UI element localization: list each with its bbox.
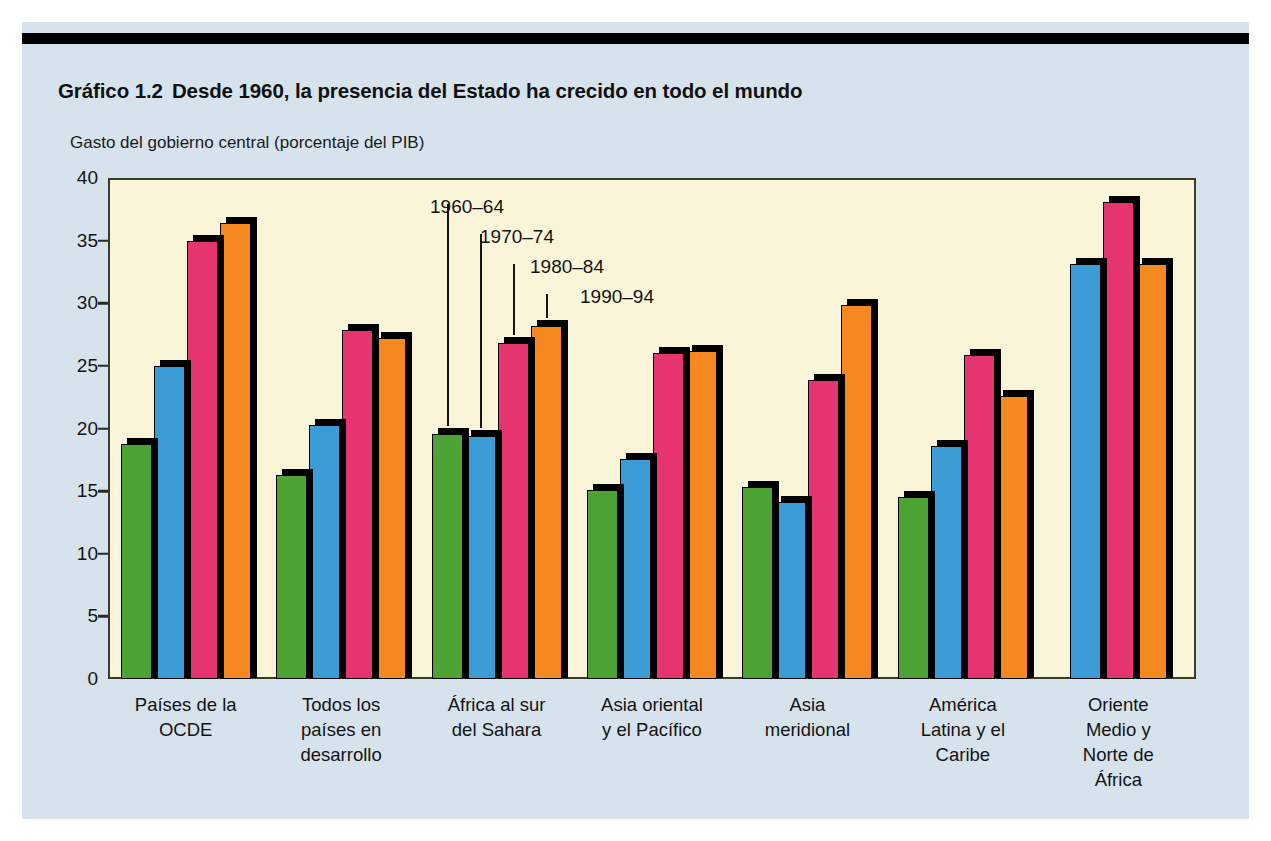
x-axis-category-labels: Países de laOCDETodos lospaíses endesarr…: [108, 692, 1196, 812]
bar-1960-64: [276, 475, 307, 679]
y-axis-tick-label: 20: [77, 418, 98, 440]
x-axis-label-line: Norte de: [1041, 742, 1196, 767]
x-axis-label-line: Oriente: [1041, 692, 1196, 717]
bar-groups: [108, 178, 1196, 679]
bar-1980-84: [808, 380, 839, 679]
bar-1980-84: [187, 241, 218, 679]
bar-1970-74: [620, 459, 651, 679]
x-axis-category-label: OrienteMedio yNorte deÁfrica: [1041, 692, 1196, 792]
x-axis-label-line: Todos los: [263, 692, 418, 717]
x-axis-label-line: Asia oriental: [574, 692, 729, 717]
bar-group: [1041, 178, 1196, 679]
x-axis-category-label: Todos lospaíses endesarrollo: [263, 692, 418, 767]
bar-1990-94: [686, 351, 717, 679]
x-axis-category-label: Países de laOCDE: [108, 692, 263, 742]
bar-1960-64: [742, 487, 773, 679]
bar-group: [419, 178, 574, 679]
x-axis-label-line: meridional: [730, 717, 885, 742]
y-axis-tick-label: 15: [77, 480, 98, 502]
plot-wrapper: [108, 178, 1196, 679]
x-axis-label-line: Caribe: [885, 742, 1040, 767]
bar-1990-94: [531, 326, 562, 679]
y-axis-tick-label: 0: [87, 668, 98, 690]
bar-group: [574, 178, 729, 679]
y-axis-tick-label: 25: [77, 355, 98, 377]
x-axis-label-line: del Sahara: [419, 717, 574, 742]
bar-1990-94: [220, 223, 251, 679]
x-axis-label-line: América: [885, 692, 1040, 717]
figure-number: Gráfico 1.2: [58, 79, 163, 102]
page-title: Gráfico 1.2Desde 1960, la presencia del …: [58, 79, 802, 103]
x-axis-category-label: AméricaLatina y elCaribe: [885, 692, 1040, 767]
x-axis-label-line: Países de la: [108, 692, 263, 717]
top-rule-divider: [22, 33, 1249, 44]
bar-1980-84: [1103, 202, 1134, 679]
bar-1970-74: [154, 366, 185, 679]
x-axis-label-line: Medio y: [1041, 717, 1196, 742]
x-axis-label-line: desarrollo: [263, 742, 418, 767]
y-axis-tick-label: 5: [87, 605, 98, 627]
y-axis-tick-label: 10: [77, 543, 98, 565]
figure-title-text: Desde 1960, la presencia del Estado ha c…: [172, 79, 803, 102]
bar-1960-64: [898, 497, 929, 679]
bar-1980-84: [498, 343, 529, 679]
bar-group: [263, 178, 418, 679]
bar-1960-64: [432, 434, 463, 679]
bar-1970-74: [309, 425, 340, 679]
x-axis-label-line: países en: [263, 717, 418, 742]
x-axis-label-line: África al sur: [419, 692, 574, 717]
bar-1990-94: [375, 338, 406, 679]
y-axis-tick-label: 35: [77, 230, 98, 252]
bar-1980-84: [964, 355, 995, 679]
bar-1970-74: [1070, 264, 1101, 679]
bar-1990-94: [1136, 264, 1167, 679]
bar-1990-94: [997, 396, 1028, 679]
y-axis-tick-label: 30: [77, 292, 98, 314]
bar-group: [885, 178, 1040, 679]
x-axis-category-label: África al surdel Sahara: [419, 692, 574, 742]
figure-root: Gráfico 1.2Desde 1960, la presencia del …: [0, 0, 1271, 841]
x-axis-label-line: Latina y el: [885, 717, 1040, 742]
bar-1960-64: [587, 490, 618, 679]
x-axis-label-line: Asia: [730, 692, 885, 717]
y-axis-tick-label: 40: [77, 167, 98, 189]
bar-1960-64: [121, 444, 152, 679]
bar-1970-74: [931, 446, 962, 679]
bar-1970-74: [775, 502, 806, 679]
bar-group: [730, 178, 885, 679]
x-axis-category-label: Asia orientaly el Pacífico: [574, 692, 729, 742]
bar-group: [108, 178, 263, 679]
y-axis-tick-labels: 0510152025303540: [46, 178, 98, 679]
y-axis-caption: Gasto del gobierno central (porcentaje d…: [70, 133, 424, 153]
x-axis-label-line: y el Pacífico: [574, 717, 729, 742]
bar-1980-84: [653, 353, 684, 679]
x-axis-category-label: Asiameridional: [730, 692, 885, 742]
x-axis-label-line: OCDE: [108, 717, 263, 742]
bar-1990-94: [841, 305, 872, 679]
x-axis-label-line: África: [1041, 767, 1196, 792]
bar-1970-74: [465, 436, 496, 679]
bar-1980-84: [342, 330, 373, 679]
